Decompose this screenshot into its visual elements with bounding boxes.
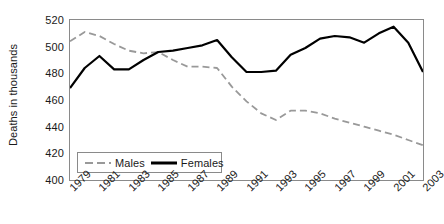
y-tick-label: 400 [30,174,64,186]
y-axis-title-text: Deaths in thousands [7,44,19,146]
dashed-line-swatch [85,159,111,167]
series-line-males [70,32,423,145]
solid-line-swatch [151,159,177,167]
y-tick-label: 520 [30,14,64,26]
line-chart: Deaths in thousands 40042044046048050052… [0,0,444,224]
series-line-females [70,27,423,88]
legend-item-males: Males [85,157,145,169]
y-tick-label: 460 [30,94,64,106]
legend-item-females: Females [151,157,224,169]
y-axis-tick-labels: 400420440460480500520 [28,0,64,224]
legend-label-males: Males [115,157,145,169]
y-tick-label: 500 [30,41,64,53]
y-axis-title: Deaths in thousands [0,0,26,190]
y-tick-label: 480 [30,67,64,79]
y-tick-label: 420 [30,147,64,159]
y-tick-label: 440 [30,121,64,133]
